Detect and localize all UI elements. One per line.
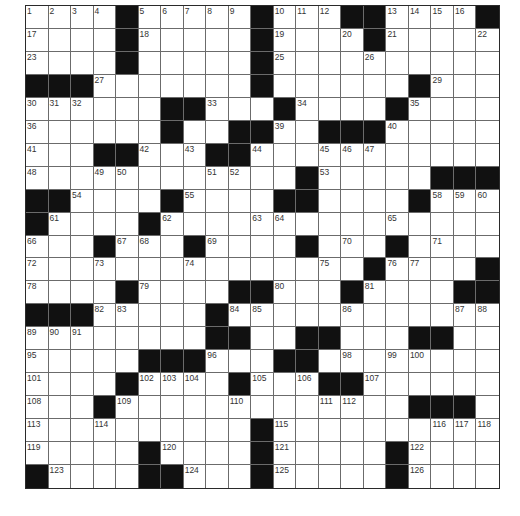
grid-cell[interactable] (454, 442, 477, 465)
grid-cell[interactable] (409, 236, 432, 259)
grid-cell[interactable] (274, 396, 297, 419)
grid-cell[interactable]: 74 (184, 258, 207, 281)
grid-cell[interactable]: 119 (26, 442, 49, 465)
grid-cell[interactable] (229, 258, 252, 281)
grid-cell[interactable]: 99 (386, 350, 409, 373)
grid-cell[interactable]: 17 (26, 29, 49, 52)
grid-cell[interactable] (476, 442, 499, 465)
grid-cell[interactable]: 78 (26, 281, 49, 304)
grid-cell[interactable] (319, 419, 342, 442)
grid-cell[interactable] (364, 304, 387, 327)
grid-cell[interactable] (476, 350, 499, 373)
grid-cell[interactable] (274, 327, 297, 350)
grid-cell[interactable] (296, 442, 319, 465)
grid-cell[interactable] (71, 442, 94, 465)
grid-cell[interactable] (364, 98, 387, 121)
grid-cell[interactable] (364, 167, 387, 190)
grid-cell[interactable]: 42 (139, 144, 162, 167)
grid-cell[interactable]: 5 (139, 6, 162, 29)
grid-cell[interactable]: 72 (26, 258, 49, 281)
grid-cell[interactable] (94, 465, 117, 488)
grid-cell[interactable]: 26 (364, 52, 387, 75)
grid-cell[interactable] (296, 419, 319, 442)
grid-cell[interactable] (454, 236, 477, 259)
grid-cell[interactable] (94, 98, 117, 121)
grid-cell[interactable] (454, 373, 477, 396)
grid-cell[interactable] (206, 258, 229, 281)
grid-cell[interactable]: 15 (431, 6, 454, 29)
grid-cell[interactable] (49, 373, 72, 396)
grid-cell[interactable]: 35 (409, 98, 432, 121)
grid-cell[interactable] (161, 236, 184, 259)
grid-cell[interactable] (94, 121, 117, 144)
grid-cell[interactable] (94, 213, 117, 236)
grid-cell[interactable] (251, 350, 274, 373)
grid-cell[interactable] (94, 29, 117, 52)
grid-cell[interactable] (184, 121, 207, 144)
grid-cell[interactable] (116, 75, 139, 98)
grid-cell[interactable] (296, 29, 319, 52)
grid-cell[interactable]: 18 (139, 29, 162, 52)
grid-cell[interactable] (184, 281, 207, 304)
grid-cell[interactable]: 96 (206, 350, 229, 373)
grid-cell[interactable]: 58 (431, 190, 454, 213)
grid-cell[interactable] (49, 350, 72, 373)
grid-cell[interactable]: 75 (319, 258, 342, 281)
grid-cell[interactable] (274, 304, 297, 327)
grid-cell[interactable] (431, 442, 454, 465)
grid-cell[interactable]: 116 (431, 419, 454, 442)
grid-cell[interactable]: 125 (274, 465, 297, 488)
grid-cell[interactable] (296, 144, 319, 167)
grid-cell[interactable]: 91 (71, 327, 94, 350)
grid-cell[interactable] (319, 465, 342, 488)
grid-cell[interactable]: 49 (94, 167, 117, 190)
grid-cell[interactable] (319, 190, 342, 213)
grid-cell[interactable]: 25 (274, 52, 297, 75)
grid-cell[interactable] (229, 52, 252, 75)
grid-cell[interactable] (206, 396, 229, 419)
grid-cell[interactable] (386, 304, 409, 327)
grid-cell[interactable] (386, 75, 409, 98)
grid-cell[interactable] (476, 121, 499, 144)
grid-cell[interactable]: 53 (319, 167, 342, 190)
grid-cell[interactable]: 112 (341, 396, 364, 419)
grid-cell[interactable] (454, 465, 477, 488)
grid-cell[interactable] (49, 236, 72, 259)
grid-cell[interactable]: 3 (71, 6, 94, 29)
grid-cell[interactable] (296, 258, 319, 281)
grid-cell[interactable]: 52 (229, 167, 252, 190)
grid-cell[interactable] (431, 281, 454, 304)
grid-cell[interactable] (431, 144, 454, 167)
grid-cell[interactable] (116, 419, 139, 442)
grid-cell[interactable] (206, 213, 229, 236)
grid-cell[interactable]: 33 (206, 98, 229, 121)
grid-cell[interactable] (116, 190, 139, 213)
grid-cell[interactable]: 88 (476, 304, 499, 327)
grid-cell[interactable] (116, 258, 139, 281)
grid-cell[interactable] (206, 75, 229, 98)
grid-cell[interactable] (476, 52, 499, 75)
grid-cell[interactable] (49, 419, 72, 442)
grid-cell[interactable] (161, 75, 184, 98)
grid-cell[interactable] (431, 258, 454, 281)
grid-cell[interactable]: 9 (229, 6, 252, 29)
grid-cell[interactable]: 113 (26, 419, 49, 442)
grid-cell[interactable]: 13 (386, 6, 409, 29)
grid-cell[interactable] (71, 258, 94, 281)
grid-cell[interactable]: 62 (161, 213, 184, 236)
grid-cell[interactable] (319, 29, 342, 52)
grid-cell[interactable] (364, 190, 387, 213)
grid-cell[interactable] (116, 213, 139, 236)
grid-cell[interactable] (206, 190, 229, 213)
grid-cell[interactable] (364, 396, 387, 419)
grid-cell[interactable] (341, 213, 364, 236)
grid-cell[interactable] (476, 144, 499, 167)
grid-cell[interactable] (161, 396, 184, 419)
grid-cell[interactable] (454, 144, 477, 167)
grid-cell[interactable]: 120 (161, 442, 184, 465)
grid-cell[interactable] (454, 75, 477, 98)
grid-cell[interactable] (94, 373, 117, 396)
grid-cell[interactable]: 4 (94, 6, 117, 29)
grid-cell[interactable]: 70 (341, 236, 364, 259)
grid-cell[interactable] (386, 281, 409, 304)
